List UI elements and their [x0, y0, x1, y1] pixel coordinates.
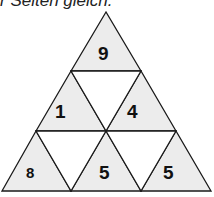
value-top: 9	[98, 43, 109, 64]
value-bottom-right: 5	[163, 162, 174, 183]
triangle-puzzle: 9 1 4 8 5 5	[0, 0, 214, 197]
value-bottom-center: 5	[99, 162, 110, 183]
value-bottom-left: 8	[26, 164, 34, 181]
value-mid-left: 1	[55, 101, 66, 122]
value-mid-right: 4	[127, 101, 138, 122]
